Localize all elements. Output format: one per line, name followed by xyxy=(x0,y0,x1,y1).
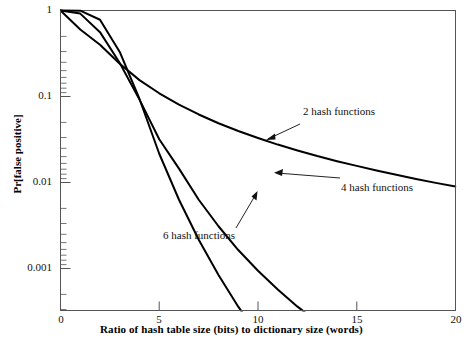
x-axis-title: Ratio of hash table size (bits) to dicti… xyxy=(100,323,363,335)
annotation-6-hash-functions: 6 hash functions xyxy=(163,229,235,241)
y-axis-title: Pr[false positive] xyxy=(11,89,23,219)
right-axis-mask xyxy=(457,0,476,344)
bloom-filter-false-positive-plot xyxy=(0,0,476,344)
y-tick-label-1: 1 xyxy=(24,3,52,15)
x-tick-label-20: 20 xyxy=(446,313,466,325)
y-tick-label-0p001: 0.001 xyxy=(12,261,52,273)
arrow-head-6-hash xyxy=(252,191,258,201)
arrow-head-4-hash xyxy=(274,169,283,176)
left-axis-mask xyxy=(0,0,60,344)
arrow-line-4-hash xyxy=(277,173,340,178)
curve-2-hash-functions xyxy=(61,11,456,187)
plot-frame xyxy=(61,11,456,311)
annotation-2-hash-functions: 2 hash functions xyxy=(303,105,375,117)
y-tick-label-0p01: 0.01 xyxy=(18,175,52,187)
y-tick-label-0p1: 0.1 xyxy=(24,89,52,101)
curve-4-hash-functions xyxy=(61,11,456,344)
annotation-arrows xyxy=(236,124,340,228)
curve-6-hash-functions xyxy=(61,11,456,344)
annotation-4-hash-functions: 4 hash functions xyxy=(341,181,413,193)
chart-figure: 1 0.1 0.01 0.001 0 5 10 15 20 Ratio of h… xyxy=(0,0,476,344)
x-tick-label-0: 0 xyxy=(53,313,69,325)
arrow-head-2-hash xyxy=(266,134,276,141)
arrow-line-6-hash xyxy=(236,194,256,228)
x-major-ticks xyxy=(61,302,456,311)
y-major-ticks xyxy=(61,11,71,269)
